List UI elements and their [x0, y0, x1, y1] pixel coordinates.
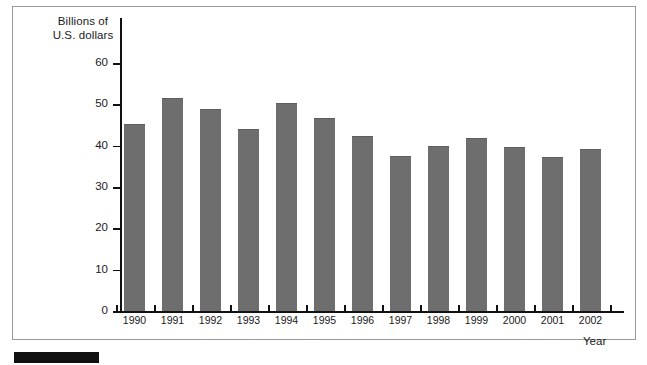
caption-marker-bar	[14, 352, 99, 363]
x-tick-label: 2000	[496, 314, 534, 326]
x-tick-mark	[610, 305, 612, 312]
bar	[238, 129, 259, 311]
y-tick: 60	[113, 63, 121, 65]
x-tick-label: 2002	[572, 314, 610, 326]
x-tick-mark	[306, 305, 308, 312]
bar	[466, 138, 487, 311]
y-tick-mark	[113, 146, 121, 148]
bar	[352, 136, 373, 311]
chart-figure: Billions of U.S. dollars 0102030405060 1…	[0, 0, 647, 365]
bar	[200, 109, 221, 311]
y-tick-mark	[113, 270, 121, 272]
x-tick-mark	[534, 305, 536, 312]
x-tick-mark	[420, 305, 422, 312]
bar	[390, 156, 411, 311]
y-tick: 40	[113, 146, 121, 148]
x-tick-label: 1998	[420, 314, 458, 326]
x-tick-label: 1996	[344, 314, 382, 326]
x-tick-mark	[496, 305, 498, 312]
y-tick-label: 10	[95, 263, 108, 275]
y-tick-mark	[113, 228, 121, 230]
y-tick-label: 50	[95, 97, 108, 109]
x-tick-mark	[572, 305, 574, 312]
y-tick-mark	[113, 187, 121, 189]
x-tick-label: 1993	[230, 314, 268, 326]
bar	[124, 124, 145, 311]
x-axis-title: Year	[583, 335, 606, 347]
y-tick-mark	[113, 104, 121, 106]
bar	[504, 147, 525, 311]
bar	[542, 157, 563, 311]
y-axis-line	[120, 18, 122, 311]
x-tick-label: 1997	[382, 314, 420, 326]
x-tick-label: 1992	[192, 314, 230, 326]
x-tick-label: 1999	[458, 314, 496, 326]
x-tick-mark	[382, 305, 384, 312]
y-tick-label: 30	[95, 180, 108, 192]
x-axis-line	[113, 311, 624, 313]
x-tick-label: 1995	[306, 314, 344, 326]
y-tick: 30	[113, 187, 121, 189]
x-tick-mark	[154, 305, 156, 312]
y-tick-label: 0	[102, 304, 108, 316]
bar	[580, 149, 601, 311]
bar	[428, 146, 449, 311]
bar	[162, 98, 183, 311]
plot-area: 0102030405060 19901991199219931994199519…	[0, 0, 647, 365]
x-tick-mark	[268, 305, 270, 312]
bar	[276, 103, 297, 311]
x-tick-mark	[192, 305, 194, 312]
x-tick-label: 2001	[534, 314, 572, 326]
y-tick: 50	[113, 104, 121, 106]
x-tick-mark	[230, 305, 232, 312]
y-tick-mark	[113, 63, 121, 65]
y-tick: 20	[113, 228, 121, 230]
y-tick: 10	[113, 270, 121, 272]
y-tick-label: 20	[95, 221, 108, 233]
x-tick-label: 1990	[116, 314, 154, 326]
bar	[314, 118, 335, 311]
x-tick-mark	[344, 305, 346, 312]
y-tick-label: 60	[95, 56, 108, 68]
y-tick-label: 40	[95, 139, 108, 151]
x-tick-mark	[116, 305, 118, 312]
x-tick-label: 1991	[154, 314, 192, 326]
x-tick-mark	[458, 305, 460, 312]
x-tick-label: 1994	[268, 314, 306, 326]
